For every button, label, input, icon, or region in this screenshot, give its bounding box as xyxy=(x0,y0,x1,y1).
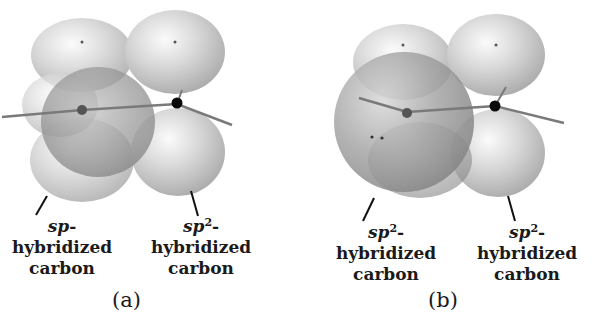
sp2-carbon-atom xyxy=(490,101,501,112)
orbital-dot xyxy=(370,135,373,138)
panel-b-right-label: sp2-hybridized carbon xyxy=(459,222,595,285)
orbital-dot xyxy=(402,44,405,47)
orbital-dot xyxy=(380,136,383,139)
p-orbital-lobe-front xyxy=(334,52,474,192)
sp-carbon-atom xyxy=(77,105,87,115)
panel-a-orbitals xyxy=(2,10,232,216)
label-leader-line xyxy=(36,196,47,215)
panel-a-right-label: sp2-hybridized carbon xyxy=(133,216,269,279)
orbital-dot xyxy=(174,41,177,44)
label-leader-line xyxy=(363,198,374,221)
orbital-dot xyxy=(495,44,498,47)
label-leader-line xyxy=(508,196,515,221)
orbital-dot xyxy=(81,41,84,44)
label-leader-line xyxy=(191,191,198,216)
sp2-orbital-lobe xyxy=(125,10,225,94)
p-orbital-lobe-front xyxy=(41,67,155,177)
sp2-carbon-atom xyxy=(402,108,412,118)
panel-a-left-label: sp-hybridized carbon xyxy=(0,216,124,279)
panel-b-orbitals xyxy=(334,14,564,221)
sp2-carbon-atom xyxy=(172,98,183,109)
panel-a-caption: (a) xyxy=(112,288,141,312)
panel-b-caption: (b) xyxy=(428,288,458,312)
panel-b-left-label: sp2-hybridized carbon xyxy=(318,222,454,285)
